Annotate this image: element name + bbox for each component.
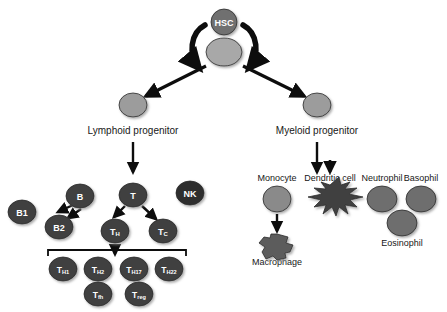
cell-b (66, 184, 94, 208)
dendritic-label: Dendritic cell (304, 173, 356, 183)
th-subset-bracket (48, 250, 186, 256)
cell-th (101, 219, 129, 243)
cell-tfh (84, 282, 112, 306)
arrow-b-to-b2-lower (68, 209, 81, 218)
cell-neutrophil (367, 186, 397, 212)
lymphoid-cell-group: B1B2BTNKTHTC (8, 181, 204, 243)
cell-b2 (45, 215, 73, 239)
cell-tc (149, 219, 177, 243)
lymphoid-progenitor-cell (119, 93, 147, 117)
cell-nk (176, 181, 204, 205)
arrow-b-to-b2-upper (58, 205, 73, 212)
myeloid-cell-group: MonocyteMacrophageDendritic cellNeutroph… (252, 160, 438, 267)
cell-th22 (155, 257, 183, 281)
cell-th2 (84, 257, 112, 281)
hsc-badge (211, 9, 237, 35)
eosinophil-label: Eosinophil (381, 238, 423, 248)
hsc-cell (206, 38, 242, 66)
cell-t (119, 183, 147, 207)
monocyte-label: Monocyte (257, 173, 296, 183)
diagram-canvas: HSC Lymphoid progenitorMyeloid progenito… (0, 0, 447, 312)
progenitor-group: Lymphoid progenitorMyeloid progenitor (88, 66, 359, 172)
self-renewal-arc-left (192, 25, 205, 68)
arrow-t-to-th (114, 206, 125, 217)
cell-b1 (8, 200, 36, 224)
arrow-hsc-to-lymphoid-progenitor (146, 66, 206, 96)
cell-basophil (406, 186, 436, 212)
myeloid-progenitor-label: Myeloid progenitor (276, 125, 359, 136)
hematopoiesis-diagram: HSC Lymphoid progenitorMyeloid progenito… (0, 0, 447, 312)
arrow-hsc-to-myeloid-progenitor (243, 66, 304, 96)
cell-th1 (49, 257, 77, 281)
arrow-t-to-tc (142, 206, 156, 219)
lymphoid-progenitor-label: Lymphoid progenitor (88, 125, 179, 136)
cell-eosinophil (387, 210, 417, 236)
th-subset-bracket-line (48, 250, 186, 256)
th-subset-group: TH1TH2TH17TH22TfhTreg (49, 257, 183, 306)
basophil-label: Basophil (404, 173, 439, 183)
cell-monocyte (263, 186, 291, 212)
neutrophil-label: Neutrophil (361, 173, 402, 183)
cell-treg (125, 282, 153, 306)
cell-th17 (120, 257, 148, 281)
stem-cell-group: HSC (192, 9, 256, 68)
myeloid-progenitor-cell (303, 93, 331, 117)
self-renewal-arc-right (243, 25, 256, 68)
